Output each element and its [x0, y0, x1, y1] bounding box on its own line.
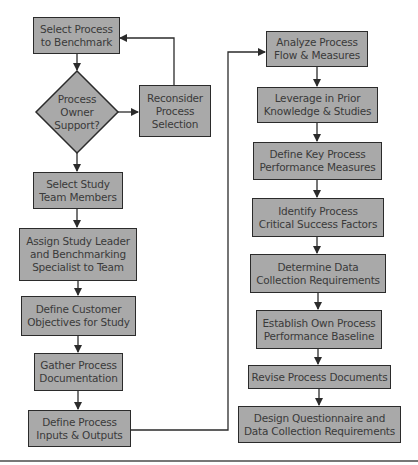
reconsider-label: Reconsider Process Selection [147, 92, 203, 131]
identify-csf-label: Identify Process Critical Success Factor… [259, 205, 377, 231]
owner-support-label: Process Owner Support? [37, 93, 117, 132]
establish-baseline-box: Establish Own Process Performance Baseli… [256, 310, 382, 349]
establish-baseline-label: Establish Own Process Performance Baseli… [262, 317, 375, 343]
reconsider-box: Reconsider Process Selection [139, 85, 211, 137]
revise-docs-label: Revise Process Documents [252, 371, 388, 384]
analyze-flow-label: Analyze Process Flow & Measures [274, 36, 360, 62]
leverage-box: Leverage in Prior Knowledge & Studies [257, 87, 378, 123]
analyze-flow-box: Analyze Process Flow & Measures [266, 31, 368, 67]
gather-docs-box: Gather Process Documentation [34, 353, 123, 391]
select-team-box: Select Study Team Members [33, 172, 123, 209]
revise-docs-box: Revise Process Documents [248, 365, 391, 389]
identify-csf-box: Identify Process Critical Success Factor… [252, 198, 384, 237]
determine-data-box: Determine Data Collection Requirements [250, 254, 386, 293]
assign-leader-box: Assign Study Leader and Benchmarking Spe… [19, 228, 137, 281]
gather-docs-label: Gather Process Documentation [39, 359, 117, 385]
define-io-label: Define Process Inputs & Outputs [36, 416, 122, 442]
determine-data-label: Determine Data Collection Requirements [256, 261, 380, 287]
select-team-label: Select Study Team Members [39, 178, 116, 204]
design-questionnaire-box: Design Questionnaire and Data Collection… [238, 406, 401, 443]
design-questionnaire-label: Design Questionnaire and Data Collection… [244, 412, 395, 438]
define-kpm-box: Define Key Process Performance Measures [253, 142, 382, 180]
define-kpm-label: Define Key Process Performance Measures [260, 148, 376, 174]
select-process-box: Select Process to Benchmark [33, 17, 120, 54]
assign-leader-label: Assign Study Leader and Benchmarking Spe… [26, 235, 130, 274]
leverage-label: Leverage in Prior Knowledge & Studies [264, 92, 372, 118]
select-process-label: Select Process to Benchmark [40, 23, 113, 49]
define-customer-box: Define Customer Objectives for Study [21, 296, 136, 336]
define-customer-label: Define Customer Objectives for Study [27, 303, 130, 329]
bottom-divider [0, 460, 418, 462]
define-io-box: Define Process Inputs & Outputs [28, 410, 131, 447]
